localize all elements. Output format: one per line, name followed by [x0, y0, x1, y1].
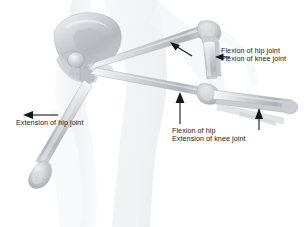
arrow-extended-knee: [255, 108, 263, 130]
label-line-1: Extension of hip joint: [16, 119, 83, 128]
skeleton-illustration: [0, 0, 307, 227]
tibia-extended-knee: [213, 90, 298, 126]
anatomical-figure: Flexion of hip joint Flexion of knee joi…: [0, 0, 307, 227]
label-line-2: Extension of knee joint: [172, 135, 245, 144]
label-flexion-hip-extension-knee: Flexion of hip Extension of knee joint: [172, 127, 245, 144]
label-flexion-hip-knee: Flexion of hip joint Flexion of knee joi…: [221, 47, 286, 64]
arrow-flexion-hip-vertical: [176, 92, 185, 124]
label-extension-hip: Extension of hip joint: [16, 119, 83, 128]
label-line-2: Flexion of knee joint: [221, 55, 286, 64]
